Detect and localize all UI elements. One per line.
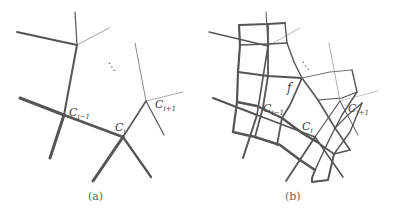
label-c-prev-b: Ci−1 — [263, 102, 284, 117]
panel-a-graph — [17, 12, 183, 181]
label-c-prev-a: Ci−1 — [69, 106, 90, 121]
caption-a: (a) — [88, 190, 103, 203]
figure: ⋱ Ci−1 Ci Ci+1 (a) — [0, 0, 393, 214]
label-c-next-b: Ci+1 — [348, 102, 369, 117]
label-c-cur-a: Ci — [115, 121, 126, 136]
caption-b: (b) — [285, 190, 301, 203]
ellipsis-b: ⋱ — [300, 60, 310, 71]
panel-b-graph — [209, 12, 378, 182]
label-c-cur-b: Ci — [302, 120, 313, 135]
label-c-next-a: Ci+1 — [155, 98, 176, 113]
label-face-f: f — [286, 81, 294, 95]
ellipsis-a: ⋱ — [106, 61, 116, 72]
